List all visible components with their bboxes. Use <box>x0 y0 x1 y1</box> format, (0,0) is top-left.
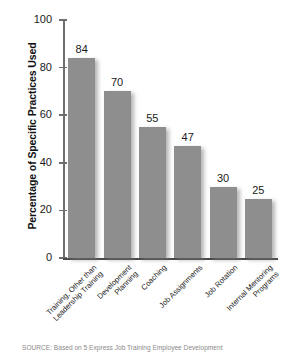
y-tick-label: 60 <box>8 108 52 120</box>
bar-group[interactable]: 25 <box>245 20 272 258</box>
bar-chart-figure: Percentage of Specific Practices Used 10… <box>0 0 302 352</box>
x-axis-labels: Training, Other than Leadership Training… <box>0 258 302 338</box>
bar-rect[interactable] <box>210 187 237 258</box>
y-tick-label: 40 <box>8 156 52 168</box>
plot-area: 847055473025 <box>64 20 276 258</box>
bar-value-label: 84 <box>59 43 105 55</box>
y-tick-label: 100 <box>8 13 52 25</box>
bar-value-label: 55 <box>129 112 175 124</box>
bar-value-label: 30 <box>200 172 246 184</box>
bar-value-label: 25 <box>235 184 281 196</box>
y-tick-label: 80 <box>8 61 52 73</box>
y-axis-title: Percentage of Specific Practices Used <box>26 16 38 256</box>
bar-group[interactable]: 30 <box>210 20 237 258</box>
bar-group[interactable]: 55 <box>139 20 166 258</box>
bar-group[interactable]: 47 <box>174 20 201 258</box>
y-tick-label: 20 <box>8 203 52 215</box>
bar-rect[interactable] <box>104 91 131 258</box>
bar-group[interactable]: 70 <box>104 20 131 258</box>
bar-value-label: 47 <box>165 131 211 143</box>
source-note: SOURCE: Based on 5 Express Job Training … <box>22 344 298 352</box>
bar-rect[interactable] <box>245 199 272 259</box>
bar-rect[interactable] <box>174 146 201 258</box>
bar-rect[interactable] <box>68 58 95 258</box>
bar-group[interactable]: 84 <box>68 20 95 258</box>
bar-rect[interactable] <box>139 127 166 258</box>
bar-value-label: 70 <box>94 76 140 88</box>
